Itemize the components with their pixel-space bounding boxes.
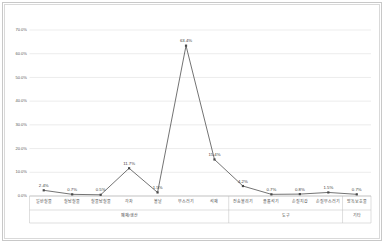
y-axis-tick-label: 70.0% xyxy=(15,27,27,32)
data-point-label: 63.4% xyxy=(180,38,192,43)
x-axis-category-label: 방독보호물 xyxy=(347,198,367,204)
data-point-label: 2.4% xyxy=(39,183,49,188)
x-axis-category-label: 일반철물 xyxy=(36,198,52,204)
y-axis-tick-label: 10.0% xyxy=(15,169,27,174)
x-axis-group-label: 기타 xyxy=(353,212,361,218)
x-axis-category-label: 손질지갑 xyxy=(292,198,308,204)
data-point-marker xyxy=(299,193,301,195)
data-point-marker xyxy=(100,194,102,196)
data-point-marker xyxy=(185,45,187,47)
x-axis-category-labels: 일반철물철납철물철물납철물각자볼날부스러기석재전송불리기플롤석기손질지갑손질부스… xyxy=(36,198,367,204)
data-point-marker xyxy=(71,193,73,195)
data-point-label: 15.4% xyxy=(208,152,220,157)
x-axis-category-label: 볼날 xyxy=(154,198,162,204)
x-axis-group-label: 도구 xyxy=(282,213,290,218)
x-axis-category-label: 철납철물 xyxy=(64,198,80,204)
y-axis-tick-label: 30.0% xyxy=(15,122,27,127)
x-axis-category-label: 각자 xyxy=(125,198,133,204)
x-axis-group-label: 폐재/생산 xyxy=(121,212,138,218)
y-axis-tick-label: 60.0% xyxy=(15,51,27,56)
data-point-marker xyxy=(213,158,215,160)
data-point-marker xyxy=(242,185,244,187)
y-axis-tick-label: 0.0% xyxy=(18,193,28,198)
data-point-label: 0.7% xyxy=(352,187,362,192)
y-axis-gridlines: 0.0%10.0%20.0%30.0%40.0%50.0%60.0%70.0% xyxy=(15,27,371,198)
data-point-label: 4.2% xyxy=(238,179,248,184)
x-axis-category-label: 부스러기 xyxy=(178,198,194,204)
data-point-label: 0.5% xyxy=(96,187,106,192)
data-point-label: 1.5% xyxy=(323,185,333,190)
y-axis-tick-label: 40.0% xyxy=(15,98,27,103)
y-axis-tick-label: 20.0% xyxy=(15,146,27,151)
line-chart: 0.0%10.0%20.0%30.0%40.0%50.0%60.0%70.0%2… xyxy=(0,0,384,243)
y-axis-tick-label: 50.0% xyxy=(15,75,27,80)
chart-container: 0.0%10.0%20.0%30.0%40.0%50.0%60.0%70.0%2… xyxy=(0,0,384,243)
data-point-label: 0.7% xyxy=(67,187,77,192)
data-point-label: 0.7% xyxy=(267,187,277,192)
x-axis-category-label: 철물납철물 xyxy=(91,198,111,204)
data-point-label: 0.8% xyxy=(295,187,305,192)
x-axis-category-label: 플롤석기 xyxy=(263,198,279,204)
x-axis-category-label: 전송불리기 xyxy=(233,198,253,204)
data-point-label: 11.7% xyxy=(123,161,135,166)
x-axis-category-label: 석재 xyxy=(210,198,218,204)
data-point-marker xyxy=(128,167,130,169)
data-point-label: 1.5% xyxy=(153,185,163,190)
data-point-marker xyxy=(356,193,358,195)
data-point-marker xyxy=(43,189,45,191)
x-axis-category-label: 손질부스러기 xyxy=(316,198,340,204)
data-point-marker xyxy=(327,191,329,193)
data-point-marker xyxy=(156,191,158,193)
data-point-marker xyxy=(270,193,272,195)
